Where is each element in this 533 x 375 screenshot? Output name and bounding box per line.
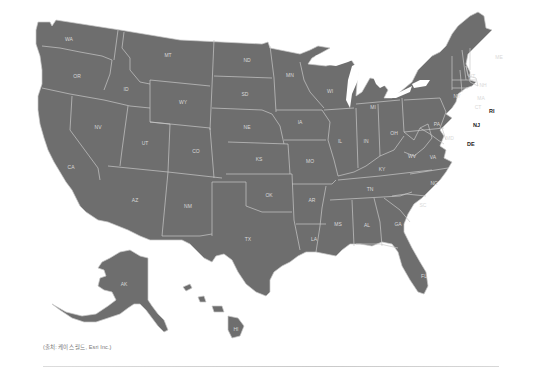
label-az: AZ bbox=[132, 197, 138, 203]
label-nv: NV bbox=[95, 124, 103, 130]
label-pa: PA bbox=[434, 121, 441, 127]
label-in: IN bbox=[364, 138, 369, 144]
state-ak bbox=[52, 250, 168, 332]
label-ks: KS bbox=[256, 156, 263, 162]
label-ar: AR bbox=[309, 197, 316, 203]
label-mi: MI bbox=[370, 104, 376, 110]
label-or: OR bbox=[73, 73, 81, 79]
label-mo: MO bbox=[306, 158, 314, 164]
label-ca: CA bbox=[68, 164, 76, 170]
label-la: LA bbox=[311, 236, 318, 242]
us-states-map: WA OR CA ID NV MT WY UT AZ CO NM ND SD N… bbox=[0, 0, 533, 375]
label-md: MD bbox=[446, 135, 454, 141]
label-ia: IA bbox=[298, 119, 303, 125]
label-sd: SD bbox=[242, 91, 249, 97]
label-tn: TN bbox=[367, 186, 374, 192]
label-mt: MT bbox=[164, 52, 171, 58]
label-nd: ND bbox=[243, 57, 251, 63]
label-co: CO bbox=[192, 148, 200, 154]
label-me: ME bbox=[495, 54, 503, 60]
label-ok: OK bbox=[265, 192, 273, 198]
label-nj: NJ bbox=[473, 122, 480, 128]
label-wi: WI bbox=[327, 88, 333, 94]
source-caption: (출처: 케이스 월드, Esri Inc.) bbox=[43, 343, 111, 351]
label-sc: SC bbox=[420, 202, 427, 208]
label-ut: UT bbox=[142, 140, 149, 146]
label-ky: KY bbox=[379, 166, 386, 172]
label-il: IL bbox=[338, 138, 342, 144]
label-wa: WA bbox=[65, 36, 74, 42]
label-id: ID bbox=[124, 86, 129, 92]
label-tx: TX bbox=[245, 236, 252, 242]
label-mn: MN bbox=[286, 72, 294, 78]
label-al: AL bbox=[364, 222, 370, 228]
label-wy: WY bbox=[179, 99, 188, 105]
label-hi: HI bbox=[234, 326, 239, 332]
label-ri: RI bbox=[489, 108, 495, 114]
label-ga: GA bbox=[394, 221, 402, 227]
label-ma: MA bbox=[477, 95, 485, 101]
label-nc: NC bbox=[430, 180, 438, 186]
divider-line bbox=[43, 366, 499, 367]
map-outline bbox=[36, 12, 492, 296]
label-wv: WV bbox=[408, 153, 417, 159]
label-fl: FL bbox=[421, 273, 427, 279]
label-ms: MS bbox=[334, 221, 342, 227]
label-ak: AK bbox=[121, 281, 128, 287]
label-vt: VT bbox=[469, 73, 475, 79]
label-nm: NM bbox=[184, 203, 192, 209]
label-ne: NE bbox=[244, 124, 252, 130]
label-oh: OH bbox=[390, 130, 398, 136]
label-ct: CT bbox=[475, 104, 482, 110]
label-va: VA bbox=[430, 154, 437, 160]
label-nh: NH bbox=[479, 82, 487, 88]
label-ny: NY bbox=[454, 93, 462, 99]
label-de: DE bbox=[467, 141, 475, 147]
